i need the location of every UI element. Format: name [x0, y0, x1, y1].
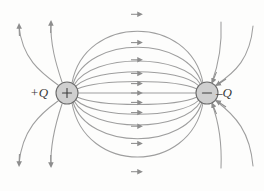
field-line-out-dn-left-near — [51, 104, 62, 166]
field-line-arc-dn-1 — [77, 97, 197, 105]
field-line-arc-dn-5 — [72, 103, 203, 157]
field-line-out-up-left-far — [19, 26, 58, 85]
field-line-arc-dn-4 — [73, 102, 202, 139]
field-line-out-up-left-near — [51, 22, 62, 82]
field-line-arc-up-5 — [77, 82, 197, 90]
field-line-out-dn-left-far — [19, 101, 58, 164]
arrowhead-in-dn-right-far — [217, 101, 226, 107]
field-line-arc-up-1 — [72, 31, 203, 83]
field-line-arc-up-2 — [73, 47, 202, 84]
positive-charge-label: +Q — [30, 85, 48, 101]
electric-dipole-figure: +Q –Q — [0, 0, 264, 191]
negative-charge-label: –Q — [216, 85, 232, 101]
